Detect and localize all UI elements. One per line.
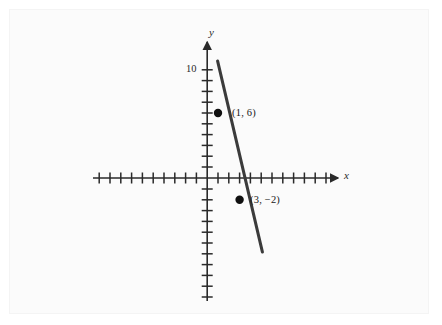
x-axis xyxy=(93,173,338,184)
x-axis-label: x xyxy=(344,169,349,181)
coordinate-plane xyxy=(0,0,442,325)
data-point-1-6 xyxy=(214,109,222,117)
y-axis-label: y xyxy=(209,26,214,38)
plotted-line xyxy=(218,61,263,252)
graph-figure: y x 10 (1, 6) (3, −2) xyxy=(0,0,442,325)
y-axis xyxy=(202,42,213,301)
data-point-3-neg2 xyxy=(235,196,243,204)
point-label-3-neg2: (3, −2) xyxy=(250,194,280,205)
point-label-1-6: (1, 6) xyxy=(232,107,256,118)
y-tick-label-10: 10 xyxy=(186,63,197,74)
